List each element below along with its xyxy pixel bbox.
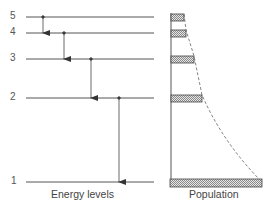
- level-label-2: 2: [10, 91, 16, 102]
- population-bar-1: [170, 179, 262, 187]
- population-bars: [170, 14, 262, 187]
- energy-levels-caption: Energy levels: [51, 188, 114, 200]
- population-bar-3: [171, 56, 194, 63]
- diagram-canvas: [0, 0, 277, 209]
- level-label-3: 3: [10, 52, 16, 63]
- level-label-5: 5: [10, 10, 16, 21]
- population-bar-4: [171, 30, 186, 37]
- transition-arrows: [42, 16, 121, 182]
- population-bar-5: [171, 14, 184, 21]
- population-caption: Population: [189, 188, 239, 200]
- level-label-4: 4: [10, 26, 16, 37]
- population-bar-2: [171, 95, 202, 102]
- energy-level-lines: [26, 17, 154, 182]
- level-label-1: 1: [11, 175, 17, 186]
